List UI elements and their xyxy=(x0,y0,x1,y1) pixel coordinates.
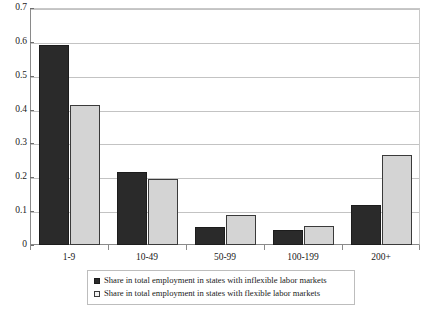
bar xyxy=(148,179,178,245)
chart-legend: Share in total employment in states with… xyxy=(87,270,355,305)
y-axis-tick-label: 0.3 xyxy=(1,139,27,149)
y-axis-tick-label: 0.4 xyxy=(1,105,27,115)
bar xyxy=(226,215,256,245)
x-axis-tick-label: 50-99 xyxy=(214,250,236,264)
bars-layer xyxy=(30,8,420,245)
bar-group xyxy=(342,8,420,245)
bar xyxy=(304,226,334,245)
x-axis-tick-label: 1-9 xyxy=(63,250,76,264)
legend-item: Share in total employment in states with… xyxy=(94,287,348,300)
y-axis-tick-label: 0.6 xyxy=(1,37,27,47)
bar xyxy=(70,105,100,246)
bar xyxy=(273,230,303,245)
legend-item-label: Share in total employment in states with… xyxy=(104,276,327,285)
bar-group xyxy=(30,8,108,245)
y-axis-tick-label: 0.1 xyxy=(1,206,27,216)
bar xyxy=(117,172,147,245)
y-axis-tick-label: 0 xyxy=(1,240,27,250)
legend-swatch-light xyxy=(94,291,100,297)
bar xyxy=(39,45,69,245)
bar xyxy=(382,155,412,245)
bar-group xyxy=(108,8,186,245)
y-axis-labels: 00.10.20.30.40.50.60.7 xyxy=(0,8,27,245)
y-axis-tick-label: 0.2 xyxy=(1,173,27,183)
x-axis-tick-label: 100-199 xyxy=(287,250,319,264)
bar xyxy=(195,227,225,245)
x-axis-labels: 1-910-4950-99100-199200+ xyxy=(30,250,420,266)
bar xyxy=(351,205,381,245)
bar-group xyxy=(186,8,264,245)
bar-group xyxy=(264,8,342,245)
x-axis-tick-label: 200+ xyxy=(371,250,391,264)
bar-chart: 00.10.20.30.40.50.60.7 1-910-4950-99100-… xyxy=(0,0,442,315)
legend-item-label: Share in total employment in states with… xyxy=(104,289,320,298)
x-axis-tick-label: 10-49 xyxy=(136,250,158,264)
y-axis-tick-label: 0.7 xyxy=(1,3,27,13)
legend-swatch-dark xyxy=(94,278,100,284)
y-axis-tick-label: 0.5 xyxy=(1,71,27,81)
legend-item: Share in total employment in states with… xyxy=(94,274,348,287)
